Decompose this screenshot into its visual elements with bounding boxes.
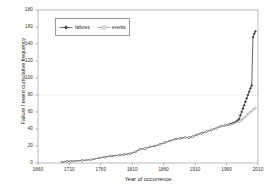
y-tick-label: 40 xyxy=(19,126,33,131)
x-tick-label: 1960 xyxy=(215,167,239,172)
data-point xyxy=(154,145,156,147)
data-point xyxy=(210,129,212,131)
data-point xyxy=(205,130,207,132)
data-point xyxy=(159,143,161,145)
events-series-marker-icon xyxy=(97,24,111,31)
data-point xyxy=(219,125,221,127)
data-point xyxy=(241,111,243,113)
data-point xyxy=(247,94,249,96)
y-tick-label: 80 xyxy=(19,92,33,97)
data-point xyxy=(195,134,197,136)
legend-label-events: events xyxy=(112,25,126,30)
x-tick-label: 2010 xyxy=(246,167,270,172)
data-point xyxy=(149,146,151,148)
data-point xyxy=(179,137,181,139)
data-point xyxy=(70,160,72,162)
data-point xyxy=(90,159,92,161)
data-point xyxy=(246,97,248,99)
data-point xyxy=(144,147,146,149)
chart-legend: failures events xyxy=(55,18,130,36)
data-point xyxy=(66,160,68,162)
x-tick-label: 1810 xyxy=(120,167,144,172)
y-tick-label: 60 xyxy=(19,109,33,114)
data-point xyxy=(129,153,131,155)
data-point xyxy=(239,114,241,116)
data-point xyxy=(215,127,217,129)
data-point xyxy=(252,36,254,38)
data-point xyxy=(123,153,125,155)
data-point xyxy=(117,154,119,156)
data-point xyxy=(227,124,229,126)
data-point xyxy=(169,140,171,142)
failures-series-marker-icon xyxy=(59,24,73,31)
data-point xyxy=(164,142,166,144)
series-failures xyxy=(61,30,257,163)
x-tick-label: 1910 xyxy=(183,167,207,172)
data-point xyxy=(174,138,176,140)
data-point xyxy=(109,155,111,157)
data-point xyxy=(242,108,244,110)
x-tick-label: 1760 xyxy=(89,167,113,172)
x-tick-label: 1710 xyxy=(57,167,81,172)
x-tick-label: 1860 xyxy=(152,167,176,172)
y-tick-label: 0 xyxy=(19,160,33,165)
y-tick-label: 20 xyxy=(19,143,33,148)
y-tick-label: 120 xyxy=(19,58,33,63)
data-point xyxy=(244,101,246,103)
chart-plot-area xyxy=(0,0,271,191)
data-point xyxy=(192,136,194,138)
data-point xyxy=(81,159,83,161)
data-point xyxy=(248,91,250,93)
data-point xyxy=(104,156,106,158)
y-tick-label: 180 xyxy=(19,7,33,12)
data-point xyxy=(200,132,202,134)
legend-item-failures: failures xyxy=(59,24,89,31)
chart-figure: Failure / event cumulative frequency Yea… xyxy=(0,0,271,191)
data-point xyxy=(243,104,245,106)
data-point xyxy=(184,136,186,138)
x-tick-label: 1660 xyxy=(26,167,50,172)
y-tick-label: 160 xyxy=(19,24,33,29)
data-point xyxy=(188,136,190,138)
data-point xyxy=(99,157,101,159)
legend-item-events: events xyxy=(97,24,126,31)
y-tick-label: 140 xyxy=(19,41,33,46)
series-events xyxy=(61,107,257,164)
legend-label-failures: failures xyxy=(75,25,90,30)
y-tick-label: 100 xyxy=(19,75,33,80)
x-axis-title: Year of occurrence xyxy=(38,176,258,182)
data-point xyxy=(223,125,225,127)
